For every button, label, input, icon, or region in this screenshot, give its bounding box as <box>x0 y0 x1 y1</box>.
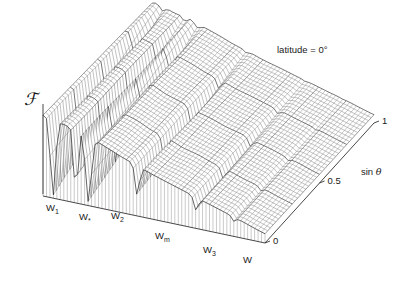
feature-label-base: W <box>155 230 164 241</box>
depth-tick-label-2: 1 <box>382 115 387 126</box>
feature-label-w1: W1 <box>46 203 59 215</box>
feature-label-subscript: 2 <box>120 216 124 223</box>
feature-label-base: W <box>203 244 212 255</box>
feature-label-base: W <box>111 210 120 221</box>
feature-label-wm: Wm <box>155 231 170 243</box>
latitude-annotation: latitude = 0° <box>277 44 328 55</box>
depth-tick-label-0: 0 <box>273 235 278 246</box>
vertical-axis-label: ℱ <box>24 89 37 109</box>
feature-label-subscript: * <box>88 217 91 224</box>
theta-symbol: θ <box>376 166 382 177</box>
feature-label-subscript: 1 <box>55 208 59 215</box>
feature-label-base: W <box>243 254 252 265</box>
figure-container: ℱ latitude = 0° sin θ 00.51 W1W*W2WmW3W <box>0 0 412 283</box>
feature-label-base: W <box>46 202 55 213</box>
depth-axis-tick <box>374 121 379 123</box>
feature-label-w2: W2 <box>111 211 124 223</box>
depth-tick-label-1: 0.5 <box>328 175 341 186</box>
depth-axis-title-prefix: sin <box>361 166 376 177</box>
depth-axis-title: sin θ <box>361 166 382 177</box>
feature-label-subscript: 3 <box>212 250 216 257</box>
surface-plot-canvas <box>0 0 412 283</box>
feature-label-w: W <box>243 255 252 265</box>
feature-label-wstar: W* <box>79 212 91 224</box>
feature-label-subscript: m <box>164 236 170 243</box>
surface-mesh <box>43 3 374 243</box>
feature-label-w3: W3 <box>203 245 216 257</box>
feature-label-base: W <box>79 211 88 222</box>
